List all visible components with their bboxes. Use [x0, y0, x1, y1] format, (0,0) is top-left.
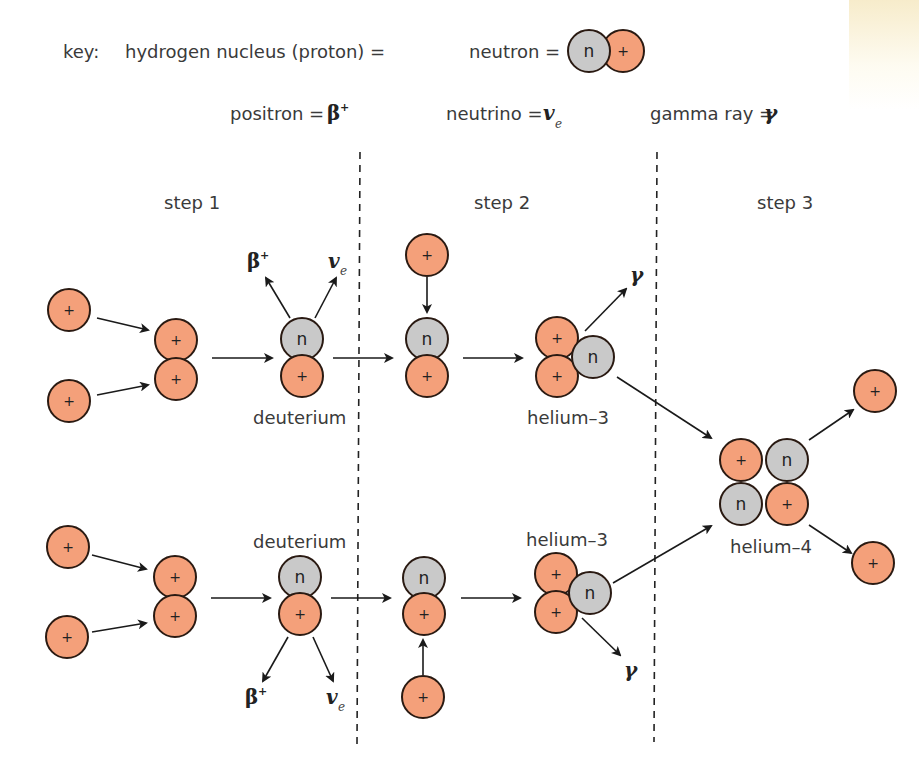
proton-icon: + [279, 593, 321, 635]
svg-text:+: + [296, 368, 308, 384]
svg-text:+: + [418, 606, 430, 622]
proton-icon: + [281, 355, 323, 397]
svg-text:+: + [550, 604, 562, 620]
svg-text:n: n [422, 329, 433, 349]
proton-icon: + [852, 542, 894, 584]
arrow-icon [97, 385, 148, 395]
key-gamma: gamma ray = γ [650, 101, 778, 125]
proton-icon: + [402, 676, 444, 718]
helium3-label-bottom: helium–3 [526, 529, 608, 550]
proton-icon: + [155, 319, 197, 361]
proton-icon: + [720, 439, 762, 481]
deuterium-label-bottom: deuterium [253, 531, 346, 552]
proton-icon: + [406, 355, 448, 397]
svg-text:n: n [736, 494, 747, 514]
neutron-icon: n [568, 30, 610, 72]
svg-text:+: + [867, 555, 879, 571]
arrow-icon [585, 289, 626, 331]
proton-icon: + [48, 380, 90, 422]
neutrino-symbol: v [543, 101, 555, 125]
neutron-icon: n [720, 483, 762, 525]
proton-icon: + [403, 593, 445, 635]
proton-icon: + [854, 370, 896, 412]
svg-text:+: + [294, 606, 306, 622]
svg-text:+: + [63, 302, 75, 318]
svg-text:+: + [417, 689, 429, 705]
arrow-icon [266, 278, 290, 318]
positron-emission-bottom-sup: + [258, 685, 267, 698]
key-neutron-label: neutron = [469, 41, 560, 62]
svg-text:+: + [617, 43, 629, 59]
svg-text:+: + [869, 383, 881, 399]
positron-emission-top-sup: + [260, 249, 269, 262]
neutron-icon: n [569, 572, 611, 614]
svg-text:+: + [550, 566, 562, 582]
svg-text:+: + [421, 368, 433, 384]
svg-text:+: + [170, 371, 182, 387]
arrow-icon [613, 526, 711, 583]
proton-icon: + [154, 595, 196, 637]
positron-emission-top: β [247, 249, 260, 273]
key-neutrino: neutrino = v e [446, 101, 562, 131]
divider-step1-step2 [357, 152, 360, 745]
proton-icon: + [46, 616, 88, 658]
step-2-label: step 2 [474, 192, 530, 213]
proton-icon: + [766, 483, 808, 525]
helium4-label: helium–4 [730, 536, 812, 557]
proton-icon: + [155, 358, 197, 400]
neutrino-emission-top: v [328, 249, 340, 273]
deuterium-label-top: deuterium [253, 407, 346, 428]
step-1-label: step 1 [164, 192, 220, 213]
arrow-icon [315, 278, 336, 318]
neutron-icon: n [279, 556, 321, 598]
svg-text:n: n [782, 450, 793, 470]
neutrino-sub: e [555, 117, 562, 131]
key-positron-label: positron = [230, 103, 324, 124]
step-3-label: step 3 [757, 192, 813, 213]
svg-text:n: n [297, 329, 308, 349]
key-positron: positron = β + [230, 101, 349, 125]
svg-text:+: + [781, 496, 793, 512]
svg-text:+: + [735, 452, 747, 468]
key-neutrino-label: neutrino = [446, 103, 543, 124]
positron-emission-bottom: β [245, 685, 258, 709]
arrow-icon [92, 555, 146, 569]
svg-text:+: + [61, 629, 73, 645]
svg-text:n: n [295, 567, 306, 587]
neutron-icon: n [766, 439, 808, 481]
particles: +n++++n++n+++n+nn+++++++n+n++++n [46, 30, 896, 718]
svg-text:+: + [62, 539, 74, 555]
svg-text:+: + [551, 330, 563, 346]
svg-text:+: + [169, 569, 181, 585]
proton-proton-chain-diagram: key: hydrogen nucleus (proton) = neutron… [0, 0, 919, 768]
divider-step2-step3 [654, 152, 657, 742]
page-glare [849, 0, 919, 110]
neutrino-emission-bottom: v [326, 685, 338, 709]
arrow-icon [582, 618, 620, 655]
proton-icon: + [48, 289, 90, 331]
proton-icon: + [406, 234, 448, 276]
gamma-symbol: γ [764, 101, 778, 125]
arrow-icon [809, 525, 851, 553]
arrow-icon [92, 623, 146, 632]
arrow-icon [809, 410, 853, 440]
key-gamma-label: gamma ray = [650, 103, 774, 124]
arrow-icon [313, 637, 333, 681]
neutron-icon: n [572, 336, 614, 378]
neutron-icon: n [281, 318, 323, 360]
positron-sup: + [340, 101, 349, 114]
svg-text:n: n [419, 568, 430, 588]
svg-text:+: + [169, 608, 181, 624]
key-proton-label: hydrogen nucleus (proton) = [125, 41, 385, 62]
svg-text:n: n [588, 347, 599, 367]
arrow-icon [263, 637, 288, 681]
arrow-icon [97, 318, 148, 330]
proton-icon: + [47, 526, 89, 568]
key-label: key: [63, 41, 99, 62]
svg-text:+: + [170, 332, 182, 348]
neutron-icon: n [406, 318, 448, 360]
gamma-emission-top: γ [630, 263, 644, 287]
svg-text:+: + [551, 368, 563, 384]
svg-text:n: n [584, 41, 595, 61]
positron-symbol: β [327, 101, 340, 125]
